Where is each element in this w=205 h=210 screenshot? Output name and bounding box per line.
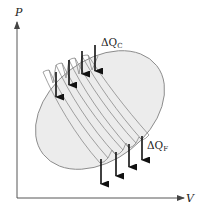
isotherm-top-3: [69, 58, 75, 60]
x-axis-label: V: [186, 192, 195, 205]
cycle-ellipse: [12, 26, 187, 193]
y-axis-label: P: [14, 6, 23, 19]
isotherm-top-1: [43, 70, 49, 72]
heat-in-label: ΔQC: [101, 36, 123, 50]
pv-diagram: P V: [0, 0, 205, 210]
isotherm-top-2: [56, 63, 62, 65]
isotherm-top-4: [82, 55, 88, 56]
heat-out-label: ΔQF: [147, 139, 168, 153]
